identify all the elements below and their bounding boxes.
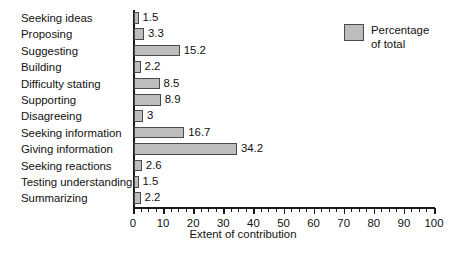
bar (134, 12, 139, 24)
bar-value-label: 1.5 (143, 10, 159, 26)
category-label: Testing understanding (21, 174, 131, 190)
bar-chart-figure: Seeking ideasProposingSuggestingBuilding… (0, 0, 454, 263)
x-tick-major (404, 208, 406, 214)
category-axis-labels: Seeking ideasProposingSuggestingBuilding… (21, 10, 131, 207)
x-tick-minor (321, 208, 322, 212)
bar-value-label: 2.2 (145, 190, 161, 206)
category-label: Difficulty stating (21, 76, 131, 92)
bar (134, 61, 141, 73)
x-tick-minor (246, 208, 247, 212)
bar (134, 28, 144, 40)
x-tick-minor (291, 208, 292, 212)
x-tick-major (133, 208, 135, 214)
x-axis-title: Extent of contribution (0, 228, 454, 240)
x-tick-minor (381, 208, 382, 212)
x-tick-major (434, 208, 436, 214)
bar-value-label: 2.2 (145, 59, 161, 75)
x-tick-minor (329, 208, 330, 212)
x-tick-major (223, 208, 225, 214)
x-tick-major (163, 208, 165, 214)
bar-row: 8.9 (134, 92, 435, 108)
bar-row: 16.7 (134, 125, 435, 141)
x-tick-minor (351, 208, 352, 212)
x-tick-minor (426, 208, 427, 212)
x-tick-minor (276, 208, 277, 212)
bar (134, 192, 141, 204)
bar (134, 94, 161, 106)
category-label: Building (21, 59, 131, 75)
bar (134, 45, 180, 57)
x-tick-major (193, 208, 195, 214)
x-tick-minor (186, 208, 187, 212)
x-tick-minor (231, 208, 232, 212)
legend-swatch-percentage-of-total (344, 24, 364, 41)
legend-label-percentage-of-total: Percentage of total (371, 24, 429, 51)
x-tick-minor (238, 208, 239, 212)
x-tick-major (284, 208, 286, 214)
bar-row: 3 (134, 108, 435, 124)
category-label: Suggesting (21, 43, 131, 59)
x-tick-major (314, 208, 316, 214)
category-label: Proposing (21, 26, 131, 42)
x-tick-major (374, 208, 376, 214)
bar (134, 78, 160, 90)
bar-value-label: 3.3 (148, 26, 164, 42)
x-tick-minor (208, 208, 209, 212)
x-tick-minor (268, 208, 269, 212)
bar (134, 127, 184, 139)
x-tick-minor (411, 208, 412, 212)
bar-value-label: 3 (147, 108, 153, 124)
bar-row: 2.2 (134, 59, 435, 75)
bar (134, 160, 142, 172)
x-tick-major (344, 208, 346, 214)
x-tick-minor (396, 208, 397, 212)
bar (134, 143, 237, 155)
x-tick-minor (156, 208, 157, 212)
bar-value-label: 16.7 (188, 125, 210, 141)
category-label: Seeking ideas (21, 10, 131, 26)
bar-value-label: 8.9 (165, 92, 181, 108)
x-tick-minor (201, 208, 202, 212)
x-tick-minor (216, 208, 217, 212)
x-tick-minor (366, 208, 367, 212)
bar-value-label: 8.5 (164, 76, 180, 92)
bar-value-label: 2.6 (146, 158, 162, 174)
bar (134, 176, 139, 188)
x-tick-minor (141, 208, 142, 212)
category-label: Giving information (21, 141, 131, 157)
category-label: Supporting (21, 92, 131, 108)
x-tick-minor (389, 208, 390, 212)
x-tick-minor (148, 208, 149, 212)
bar-row: 2.6 (134, 158, 435, 174)
category-label: Seeking information (21, 125, 131, 141)
x-tick-minor (178, 208, 179, 212)
x-tick-minor (299, 208, 300, 212)
x-tick-major (253, 208, 255, 214)
bar-row: 2.2 (134, 190, 435, 206)
bar-row: 1.5 (134, 174, 435, 190)
x-tick-minor (306, 208, 307, 212)
category-label: Seeking reactions (21, 158, 131, 174)
bar-value-label: 1.5 (143, 174, 159, 190)
category-label: Summarizing (21, 190, 131, 206)
bar-value-label: 34.2 (241, 141, 263, 157)
bar (134, 110, 143, 122)
x-tick-minor (336, 208, 337, 212)
x-axis-title-text: Extent of contribution (189, 228, 296, 240)
category-label: Disagreeing (21, 108, 131, 124)
bar-row: 8.5 (134, 76, 435, 92)
bar-row: 34.2 (134, 141, 435, 157)
x-tick-minor (419, 208, 420, 212)
x-tick-minor (171, 208, 172, 212)
chart-legend: Percentage of total (344, 24, 429, 51)
x-tick-minor (261, 208, 262, 212)
x-tick-minor (359, 208, 360, 212)
bar-value-label: 15.2 (184, 43, 206, 59)
